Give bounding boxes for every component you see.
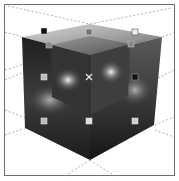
light-highlight (98, 60, 124, 84)
handle-inner-right[interactable] (128, 41, 134, 47)
viewport-canvas[interactable] (0, 0, 179, 181)
handle-top-right[interactable] (132, 29, 138, 35)
light-highlight (54, 68, 82, 92)
handle-middle-right[interactable] (132, 74, 138, 80)
handle-inner-left[interactable] (46, 42, 52, 48)
handle-bottom-center[interactable] (86, 118, 92, 124)
handle-middle-left[interactable] (41, 74, 47, 80)
handle-top-center[interactable] (86, 29, 92, 35)
handle-bottom-right[interactable] (132, 118, 138, 124)
handle-bottom-left[interactable] (41, 118, 47, 124)
3d-viewport[interactable] (0, 0, 179, 181)
handle-top-left[interactable] (41, 28, 47, 34)
